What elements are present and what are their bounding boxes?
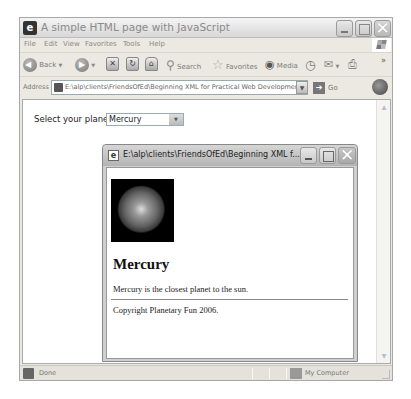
back-dropdown-icon[interactable]: ▼: [58, 62, 62, 68]
back-arrow-icon: [23, 58, 37, 72]
address-label: Address: [23, 83, 49, 91]
forward-dropdown-icon[interactable]: ▼: [91, 62, 95, 68]
status-bar: Done My Computer: [20, 365, 392, 380]
search-icon: ⚲: [166, 58, 175, 72]
toolbar-chevron[interactable]: »: [381, 53, 386, 69]
address-dropdown-button[interactable]: ▼: [296, 81, 308, 94]
menu-help[interactable]: Help: [149, 40, 165, 48]
menu-edit[interactable]: Edit: [44, 40, 58, 48]
forward-button[interactable]: ▼: [75, 57, 95, 73]
popup-ie-icon: e: [108, 150, 119, 161]
history-icon: ◷: [305, 58, 315, 72]
popup-window: e E:\alp\clients\FriendsOfEd\Beginning X…: [102, 144, 358, 362]
favorites-button[interactable]: ☆ Favorites: [212, 57, 258, 73]
page-content: Select your planet: Mercury ▼ e E:\alp\c…: [22, 99, 391, 364]
computer-zone-icon: [290, 368, 302, 379]
status-separator: [252, 368, 253, 379]
menu-favorites[interactable]: Favorites: [85, 40, 117, 48]
stop-icon: ✕: [106, 57, 119, 71]
media-icon: ◉: [265, 58, 275, 71]
favorites-label: Favorites: [226, 63, 258, 71]
menu-file[interactable]: File: [24, 40, 36, 48]
copyright-text: Copyright Planetary Fun 2006.: [113, 305, 218, 315]
back-button[interactable]: Back ▼: [23, 57, 62, 73]
favorites-star-icon: ☆: [212, 57, 224, 72]
home-icon: ⌂: [145, 57, 158, 71]
menu-tools[interactable]: Tools: [123, 40, 140, 48]
planet-image: [111, 179, 174, 242]
close-icon: ✕: [375, 18, 390, 38]
divider: [111, 299, 348, 300]
address-input[interactable]: E:\alp\clients\FriendsOfEd\Beginning XML…: [51, 80, 308, 95]
address-bar: Address E:\alp\clients\FriendsOfEd\Begin…: [20, 76, 392, 98]
ie-icon: e: [23, 21, 37, 35]
popup-maximize-button[interactable]: [319, 147, 336, 164]
go-arrow-icon: ➔: [313, 82, 325, 94]
maximize-button[interactable]: [355, 20, 372, 37]
status-separator: [269, 368, 270, 379]
planet-select-value: Mercury: [109, 115, 141, 124]
scroll-down-button[interactable]: ▼: [377, 349, 391, 363]
status-text: Done: [39, 369, 56, 377]
popup-body: Mercury Mercury is the closest planet to…: [106, 167, 354, 359]
planet-select-label: Select your planet:: [34, 114, 115, 124]
mail-button[interactable]: ✉ ▼: [324, 57, 339, 73]
media-label: Media: [277, 62, 298, 70]
chevron-down-icon[interactable]: ▼: [169, 114, 183, 125]
stop-button[interactable]: ✕: [106, 57, 119, 73]
mail-dropdown-icon[interactable]: ▼: [335, 63, 339, 69]
planet-heading: Mercury: [113, 256, 169, 273]
planet-description: Mercury is the closest planet to the sun…: [113, 284, 248, 294]
messenger-icon[interactable]: [372, 79, 388, 95]
zone-text: My Computer: [305, 369, 349, 377]
refresh-button[interactable]: ↻: [126, 57, 139, 73]
close-button[interactable]: ✕: [374, 20, 391, 37]
scroll-up-button[interactable]: ▲: [377, 100, 391, 114]
go-label: Go: [328, 84, 338, 92]
minimize-button[interactable]: [336, 20, 353, 37]
back-label: Back: [39, 61, 56, 69]
search-label: Search: [177, 63, 201, 71]
windows-logo-icon: [372, 38, 391, 52]
menu-view[interactable]: View: [63, 40, 80, 48]
print-icon: ⎙: [348, 58, 357, 71]
mail-icon: ✉: [324, 58, 333, 71]
vertical-scrollbar[interactable]: ▲ ▼: [376, 100, 390, 363]
history-button[interactable]: ◷: [305, 57, 315, 73]
resize-grip[interactable]: [382, 370, 390, 379]
toolbar: Back ▼ ▼ ✕ ↻ ⌂ ⚲ Search ☆ Favorites ◉ Me…: [20, 52, 392, 76]
popup-close-button[interactable]: ✕: [338, 147, 356, 164]
address-value: E:\alp\clients\FriendsOfEd\Beginning XML…: [65, 83, 308, 91]
popup-title: E:\alp\clients\FriendsOfEd\Beginning XML…: [123, 150, 300, 159]
media-button[interactable]: ◉ Media: [265, 57, 298, 73]
home-button[interactable]: ⌂: [145, 57, 158, 73]
window-title: A simple HTML page with JavaScript: [41, 21, 230, 33]
page-icon: [54, 83, 63, 92]
title-bar: e A simple HTML page with JavaScript ✕: [20, 18, 392, 38]
page-done-icon: [23, 368, 34, 379]
refresh-icon: ↻: [126, 57, 139, 71]
close-icon: ✕: [339, 145, 355, 165]
go-button[interactable]: ➔Go: [313, 81, 338, 95]
browser-window: e A simple HTML page with JavaScript ✕ F…: [19, 17, 393, 381]
forward-arrow-icon: [75, 58, 89, 72]
menu-bar: File Edit View Favorites Tools Help: [20, 38, 392, 52]
search-button[interactable]: ⚲ Search: [166, 57, 201, 73]
popup-title-bar: e E:\alp\clients\FriendsOfEd\Beginning X…: [103, 145, 357, 166]
print-button[interactable]: ⎙: [348, 57, 357, 73]
popup-minimize-button[interactable]: [300, 147, 317, 164]
status-separator: [286, 368, 287, 379]
